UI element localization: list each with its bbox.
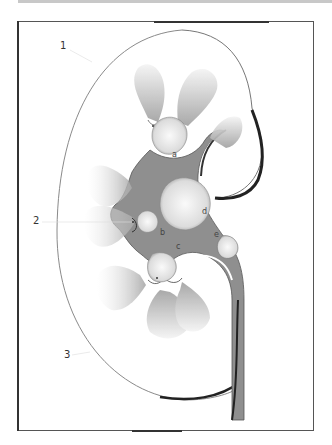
label-a: a xyxy=(172,151,177,159)
label-2: 2 xyxy=(33,216,39,226)
stone-c xyxy=(148,252,177,282)
stone-d xyxy=(160,178,210,230)
label-b: b xyxy=(160,229,165,237)
stone-e xyxy=(217,236,238,259)
label-1: 1 xyxy=(60,41,66,51)
label-e: e xyxy=(214,231,219,239)
label-c: c xyxy=(176,243,180,251)
kidney-diagram xyxy=(0,0,332,445)
label-d: d xyxy=(202,208,207,216)
label-3: 3 xyxy=(64,350,70,360)
stone-b xyxy=(137,211,158,233)
stone-a xyxy=(152,117,187,154)
